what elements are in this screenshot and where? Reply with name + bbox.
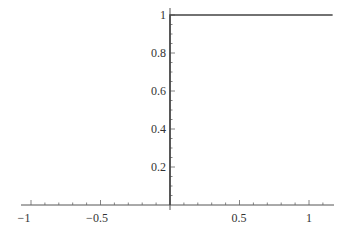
step-curve [170,15,333,205]
x-ticks [31,200,323,205]
y-tick-label-06: 0.6 [151,84,166,98]
y-tick-label-08: 0.8 [151,46,166,60]
x-tick-label-neg05: −0.5 [86,211,108,225]
y-tick-label-04: 0.4 [151,122,166,136]
y-tick-label-1: 1 [160,8,166,22]
x-tick-label-1: 1 [306,211,312,225]
step-function-chart: −1 −0.5 0.5 1 0.2 0.4 0.6 0.8 1 [0,0,352,232]
y-tick-label-02: 0.2 [151,160,166,174]
x-tick-label-05: 0.5 [232,211,247,225]
x-tick-label-neg1: −1 [18,211,31,225]
